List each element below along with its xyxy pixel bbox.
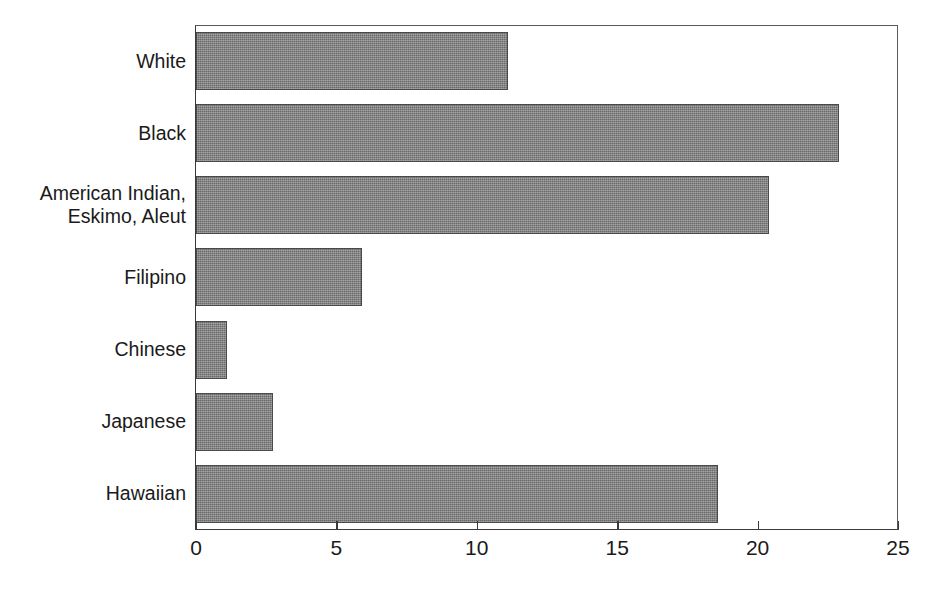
bar <box>196 248 362 306</box>
x-axis-tick-label: 0 <box>190 536 202 560</box>
x-axis: 0510152025 <box>0 530 931 590</box>
x-axis-tick-mark <box>617 521 618 530</box>
bar-row <box>196 169 898 241</box>
bar-row <box>196 386 898 458</box>
bar <box>196 465 718 523</box>
bar <box>196 104 839 162</box>
y-axis-category-labels: WhiteBlackAmerican Indian, Eskimo, Aleut… <box>0 25 186 530</box>
y-axis-tick-label: American Indian, Eskimo, Aleut <box>0 169 186 241</box>
x-axis-tick-label: 5 <box>331 536 343 560</box>
y-axis-tick-label: White <box>0 25 186 97</box>
x-axis-tick-mark <box>898 521 899 530</box>
bar-row <box>196 241 898 313</box>
bar-row <box>196 314 898 386</box>
bar <box>196 176 769 234</box>
x-axis-tick-label: 25 <box>886 536 909 560</box>
bar-row <box>196 458 898 530</box>
x-axis-tick-mark <box>196 521 197 530</box>
bar-row <box>196 97 898 169</box>
y-axis-tick-label: Filipino <box>0 241 186 313</box>
y-axis-tick-label: Black <box>0 97 186 169</box>
bar <box>196 393 273 451</box>
y-axis-tick-label: Hawaiian <box>0 458 186 530</box>
x-axis-tick-label: 15 <box>606 536 629 560</box>
y-axis-tick-label: Chinese <box>0 314 186 386</box>
x-axis-tick-mark <box>758 521 759 530</box>
bar-row <box>196 25 898 97</box>
bars-container <box>196 25 898 530</box>
bar <box>196 32 508 90</box>
x-axis-tick-label: 10 <box>465 536 488 560</box>
x-axis-tick-mark <box>336 521 337 530</box>
y-axis-tick-label: Japanese <box>0 386 186 458</box>
bar <box>196 321 227 379</box>
x-axis-tick-mark <box>477 521 478 530</box>
x-axis-tick-label: 20 <box>746 536 769 560</box>
bar-chart: WhiteBlackAmerican Indian, Eskimo, Aleut… <box>0 0 931 593</box>
